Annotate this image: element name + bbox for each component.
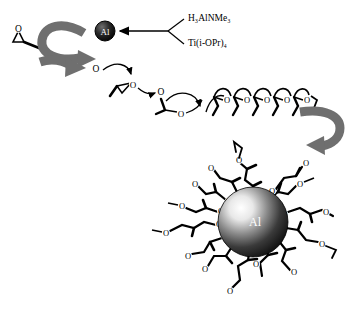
initiator-core-label: Al <box>101 27 110 37</box>
intermediate-oxygen-1: O <box>93 64 100 74</box>
coil-oxygen-1: O <box>224 95 230 105</box>
reagent-label-titanium: Ti(i-OPr)₄ <box>188 38 227 49</box>
intermediate-oxygen-4: O <box>178 109 185 119</box>
arm-sw-oxygen-2: O <box>185 251 191 261</box>
arm-nnw-oxygen-2: O <box>208 163 214 173</box>
coil-oxygen-4: O <box>284 95 290 105</box>
arm-nw-oxygen-2: O <box>192 179 198 189</box>
aluminium-initiator: Al <box>95 21 115 41</box>
intermediate-oxygen-3: O <box>158 87 165 97</box>
coil-oxygen-2: O <box>244 95 250 105</box>
arm-ssw-oxygen-2: O <box>202 264 208 274</box>
arm-wnw-oxygen-2: O <box>179 201 185 211</box>
arm-se-oxygen-2: O <box>291 267 297 277</box>
nanoparticle-core-label: Al <box>249 215 262 229</box>
arm-s-oxygen-2: O <box>227 286 233 296</box>
arm-nne-oxygen: O <box>297 179 303 189</box>
reaction-scheme-figure: O Al H₃AlNMe₃ Ti(i-OPr)₄ O O O <box>0 0 361 318</box>
arm-w-oxygen-2: O <box>163 228 169 238</box>
arm-ese-oxygen-2: O <box>319 239 325 249</box>
epoxide-oxygen-label: O <box>15 24 22 34</box>
arm-sse-oxygen-2: O <box>253 259 259 269</box>
coil-oxygen-3: O <box>264 95 270 105</box>
intermediate-oxygen-2: O <box>130 80 137 90</box>
coil-oxygen-5: O <box>304 95 310 105</box>
arm-ne-oxygen-2: O <box>303 158 309 168</box>
reagent-label-aluminium: H₃AlNMe₃ <box>188 13 231 23</box>
arm-e-oxygen-2: O <box>323 207 329 217</box>
